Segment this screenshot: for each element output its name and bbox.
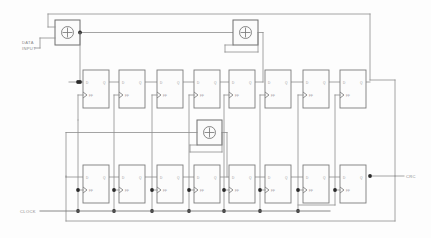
clock-label: CLOCK xyxy=(20,209,36,214)
junction-ff-b4-clk xyxy=(187,188,191,192)
data-input-label-line2: INPUT xyxy=(22,46,36,51)
junction-ff-b7-clk xyxy=(296,188,300,192)
ff-t7-ff-label: FF xyxy=(309,94,313,98)
flipflop-bottom-6[interactable]: D Q FF xyxy=(258,165,291,213)
junction-ff-b5-clk xyxy=(222,188,226,192)
ff-b5-q-label: Q xyxy=(249,176,252,180)
ff-t7-q-label: Q xyxy=(323,81,326,85)
ff-b1-body xyxy=(83,165,109,203)
ff-t2-body xyxy=(119,70,145,108)
ff-b8-q-label: Q xyxy=(360,176,363,180)
ff-t8-body xyxy=(340,70,366,108)
ff-b6-ff-label: FF xyxy=(271,189,275,193)
ff-b2-q-label: Q xyxy=(139,176,142,180)
ff-b3-body xyxy=(157,165,183,203)
crc-schematic-diagram: D Q FF D Q FF D Q xyxy=(0,0,431,238)
ff-b8-ff-label: FF xyxy=(346,189,350,193)
ff-b6-q-label: Q xyxy=(285,176,288,180)
flipflop-bottom-7[interactable]: D Q FF xyxy=(296,165,329,213)
ff-b7-ff-label: FF xyxy=(309,189,313,193)
junction-ff-b1-top xyxy=(76,80,80,84)
ff-t5-ff-label: FF xyxy=(235,94,239,98)
ff-t3-body xyxy=(157,70,183,108)
ff-b8-body xyxy=(340,165,366,203)
ff-t1-q-label: Q xyxy=(103,81,106,85)
ff-t4-q-label: Q xyxy=(214,81,217,85)
ff-b7-body xyxy=(303,165,329,203)
junction-crc-output xyxy=(368,174,372,178)
junction-ff-b3-clk xyxy=(150,188,154,192)
data-input-label-line1: DATA xyxy=(22,40,34,45)
junction-ff-b6-clk xyxy=(258,188,262,192)
ff-t5-q-label: Q xyxy=(249,81,252,85)
ff-b5-ff-label: FF xyxy=(235,189,239,193)
flipflop-bottom-2[interactable]: D Q FF xyxy=(112,165,145,213)
crc-output-label: CRC xyxy=(406,174,416,179)
ff-b2-body xyxy=(119,165,145,203)
ff-t2-ff-label: FF xyxy=(125,94,129,98)
ff-t4-ff-label: FF xyxy=(200,94,204,98)
junction-ff-b1-clk xyxy=(76,188,80,192)
schematic-canvas: D Q FF D Q FF D Q xyxy=(0,0,431,238)
ff-b1-ff-label: FF xyxy=(89,189,93,193)
ff-b4-ff-label: FF xyxy=(200,189,204,193)
ff-t6-ff-label: FF xyxy=(271,94,275,98)
ff-t8-ff-label: FF xyxy=(346,94,350,98)
flipflop-bottom-8[interactable]: D Q FF xyxy=(333,165,366,203)
ff-t8-q-label: Q xyxy=(360,81,363,85)
ff-t7-body xyxy=(303,70,329,108)
flipflop-bottom-4[interactable]: D Q FF xyxy=(187,165,220,213)
ff-b6-body xyxy=(265,165,291,203)
ff-b3-q-label: Q xyxy=(177,176,180,180)
ff-t1-ff-label: FF xyxy=(89,94,93,98)
ff-b5-body xyxy=(229,165,255,203)
ff-b7-q-label: Q xyxy=(323,176,326,180)
ff-t2-q-label: Q xyxy=(139,81,142,85)
ff-b3-ff-label: FF xyxy=(163,189,167,193)
ff-t1-body xyxy=(83,70,109,108)
ff-b2-ff-label: FF xyxy=(125,189,129,193)
ff-b4-body xyxy=(194,165,220,203)
ff-b4-q-label: Q xyxy=(214,176,217,180)
ff-t6-body xyxy=(265,70,291,108)
junction-ff-b2-clk xyxy=(112,188,116,192)
ff-t5-body xyxy=(229,70,255,108)
ff-b1-q-label: Q xyxy=(103,176,106,180)
ff-t3-ff-label: FF xyxy=(163,94,167,98)
junction-ff-b8-clk xyxy=(333,188,337,192)
ff-t3-q-label: Q xyxy=(177,81,180,85)
ff-t4-body xyxy=(194,70,220,108)
ff-t6-q-label: Q xyxy=(285,81,288,85)
flipflop-bottom-3[interactable]: D Q FF xyxy=(150,165,183,213)
